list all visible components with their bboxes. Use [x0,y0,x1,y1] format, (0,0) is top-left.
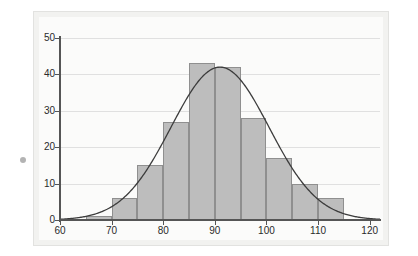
y-tick-mark [55,74,60,75]
histogram-bar [215,67,241,220]
histogram-bar [112,198,138,220]
y-tick-mark [55,111,60,112]
chart-screenshot: 01020304050 60708090100110120 [0,0,418,256]
histogram-plot-area: 01020304050 60708090100110120 [60,38,380,220]
gridline [60,38,380,39]
x-axis-line [59,219,381,221]
x-tick-label: 80 [158,226,169,236]
y-tick-mark [55,184,60,185]
y-tick-mark [55,147,60,148]
x-tick-label: 120 [361,226,378,236]
y-axis-label-smudge [20,157,26,163]
histogram-bar [163,122,189,220]
x-tick-label: 90 [209,226,220,236]
y-tick-label: 0 [33,215,55,225]
histogram-bar [266,158,292,220]
y-tick-label: 20 [33,142,55,152]
x-tick-label: 110 [310,226,326,236]
y-tick-label: 40 [33,69,55,79]
histogram-bar [241,118,267,220]
x-tick-label: 70 [106,226,117,236]
x-tick-label: 100 [258,226,275,236]
histogram-bar [189,63,215,220]
y-tick-label: 50 [33,33,55,43]
y-tick-mark [55,38,60,39]
x-tick-label: 60 [54,226,65,236]
histogram-bar [137,165,163,220]
histogram-bar [318,198,344,220]
histogram-bar [292,184,318,220]
y-tick-label: 10 [33,179,55,189]
y-tick-label: 30 [33,106,55,116]
y-axis-line [59,36,61,222]
